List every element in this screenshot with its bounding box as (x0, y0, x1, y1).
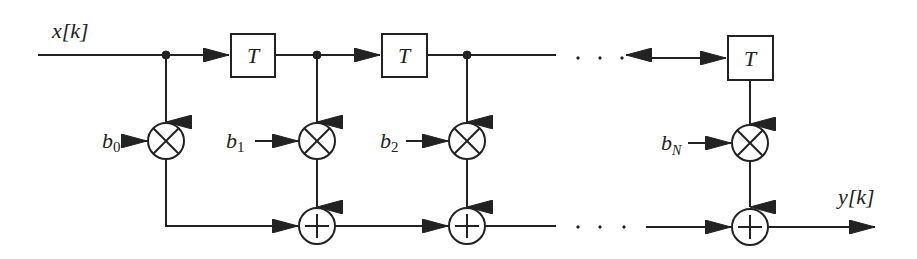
ellipsis-top (577, 57, 623, 59)
delay-box-N: T (728, 36, 773, 80)
adder-1 (299, 208, 335, 244)
svg-text:b0: b0 (102, 128, 121, 155)
svg-text:b2: b2 (380, 128, 399, 155)
multiplier-2 (449, 123, 485, 159)
output-label: y[k] (836, 184, 875, 209)
svg-text:b1: b1 (226, 128, 245, 155)
multiplier-0 (148, 123, 184, 159)
multiplier-1 (299, 123, 335, 159)
coefficient-b0: b0 (102, 128, 147, 155)
coefficient-b2: b2 (380, 128, 448, 155)
adder-2 (449, 208, 485, 244)
delay-box-2: T (382, 34, 427, 77)
delay-label: T (398, 43, 412, 68)
ellipsis-bottom (577, 226, 625, 228)
adder-N (732, 209, 768, 245)
sum-line (335, 226, 875, 227)
coefficient-b1: b1 (226, 128, 298, 155)
coefficient-bN: bN (661, 130, 731, 158)
svg-text:bN: bN (661, 130, 682, 158)
delay-label: T (247, 43, 261, 68)
input-label: x[k] (51, 18, 89, 43)
delay-box-1: T (231, 34, 275, 77)
delay-label: T (744, 46, 758, 71)
multiplier-N (732, 125, 768, 161)
fir-filter-diagram: x[k] T T T (0, 0, 917, 259)
